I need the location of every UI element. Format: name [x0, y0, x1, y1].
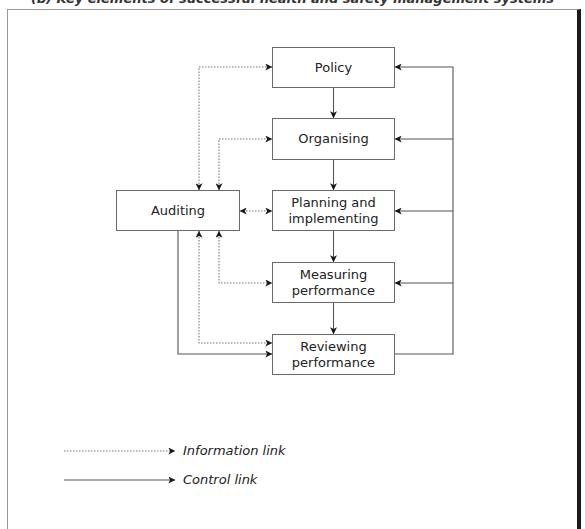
node-planning: Planning andimplementing	[272, 190, 395, 231]
node-label: Measuring	[292, 267, 375, 283]
information-link-auditing-to-organising	[219, 139, 272, 190]
node-label: performance	[292, 355, 375, 371]
legend-control-label: Control link	[183, 472, 257, 487]
node-label: Reviewing	[292, 339, 375, 355]
node-organising: Organising	[272, 118, 395, 160]
node-reviewing: Reviewingperformance	[272, 334, 395, 375]
node-label: Organising	[298, 131, 368, 147]
node-policy: Policy	[272, 47, 395, 88]
control-link-auditing-to-reviewing	[178, 231, 272, 354]
legend-lines	[64, 451, 175, 480]
node-label: performance	[292, 283, 375, 299]
node-measuring: Measuringperformance	[272, 262, 395, 303]
legend-information-label: Information link	[183, 443, 286, 458]
information-link-auditing-to-reviewing	[199, 231, 272, 343]
node-label: Planning and	[288, 195, 378, 211]
information-link-auditing-to-policy	[199, 67, 272, 190]
information-link-auditing-to-measuring	[219, 231, 272, 283]
node-label: Auditing	[151, 203, 205, 219]
node-label: implementing	[288, 211, 378, 227]
node-label: Policy	[315, 60, 352, 76]
node-auditing: Auditing	[116, 190, 240, 231]
